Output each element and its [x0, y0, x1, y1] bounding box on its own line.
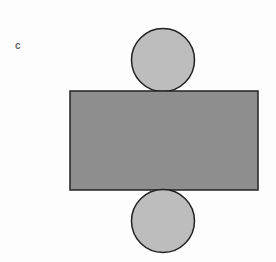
- lateral-rectangle: [70, 91, 258, 190]
- bottom-circle: [132, 190, 195, 253]
- top-circle: [132, 29, 195, 92]
- cylinder-net-diagram: [0, 0, 276, 262]
